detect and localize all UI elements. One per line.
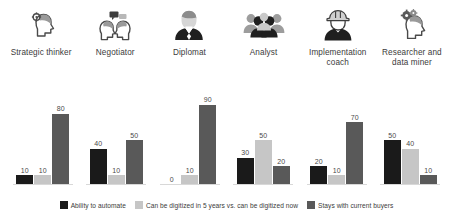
bar-value-label: 30 bbox=[241, 149, 249, 156]
bar bbox=[126, 140, 143, 184]
bar bbox=[52, 114, 69, 184]
bar-wrap: 50 bbox=[255, 78, 272, 184]
category-header-researcher-data-miner: Researcher and data miner bbox=[375, 4, 449, 78]
legend-item[interactable]: Ability to automate bbox=[60, 201, 126, 209]
bar-wrap: 50 bbox=[126, 78, 143, 184]
bar-wrap: 40 bbox=[90, 78, 107, 184]
bar-value-label: 10 bbox=[21, 167, 29, 174]
group-of-people-icon bbox=[241, 4, 287, 46]
bar-value-label: 50 bbox=[130, 132, 138, 139]
bar bbox=[384, 140, 401, 184]
category-label: Strategic thinker bbox=[11, 48, 72, 58]
bar-wrap: 90 bbox=[199, 78, 216, 184]
bar bbox=[199, 105, 216, 184]
legend-swatch bbox=[60, 201, 68, 209]
bar-group: 201070 bbox=[300, 78, 374, 193]
bar bbox=[402, 149, 419, 184]
bar-value-label: 10 bbox=[186, 167, 194, 174]
person-suit-tie-icon bbox=[172, 4, 206, 46]
category-label: Implementation coach bbox=[301, 48, 375, 68]
head-with-gear-icon bbox=[24, 4, 58, 46]
bar-wrap: 80 bbox=[52, 78, 69, 184]
bar bbox=[237, 158, 254, 184]
category-label: Researcher and data miner bbox=[375, 48, 449, 68]
bar bbox=[273, 166, 290, 184]
bar-value-label: 40 bbox=[406, 140, 414, 147]
bar-value-label: 80 bbox=[57, 105, 65, 112]
bar-value-label: 90 bbox=[204, 96, 212, 103]
bar-value-label: 70 bbox=[351, 114, 359, 121]
bar-wrap: 20 bbox=[310, 78, 327, 184]
bar-value-label: 10 bbox=[424, 167, 432, 174]
bar-value-label: 10 bbox=[39, 167, 47, 174]
bar-value-label: 20 bbox=[277, 158, 285, 165]
bar-group: 01090 bbox=[153, 78, 227, 193]
bar-value-label: 10 bbox=[112, 167, 120, 174]
bar-value-label: 20 bbox=[315, 158, 323, 165]
two-heads-speech-bubbles-icon bbox=[95, 4, 135, 46]
bar-wrap: 0 bbox=[163, 78, 180, 184]
person-hard-hat-icon bbox=[321, 4, 355, 46]
bar-value-label: 50 bbox=[388, 132, 396, 139]
category-header-row: Strategic thinker Negotiator bbox=[0, 0, 453, 78]
legend-label: Can be digitized in 5 years vs. can be d… bbox=[146, 202, 298, 209]
category-label: Analyst bbox=[250, 48, 278, 58]
bar-wrap: 10 bbox=[328, 78, 345, 184]
bar bbox=[108, 175, 125, 184]
legend-swatch bbox=[135, 201, 143, 209]
bar-value-label: 10 bbox=[333, 167, 341, 174]
legend-item[interactable]: Stays with current buyers bbox=[307, 201, 393, 209]
legend-label: Ability to automate bbox=[71, 202, 126, 209]
bar-value-label: 40 bbox=[94, 140, 102, 147]
bar-wrap: 40 bbox=[402, 78, 419, 184]
bar-wrap: 30 bbox=[237, 78, 254, 184]
bar-value-label: 50 bbox=[259, 132, 267, 139]
head-with-gears-icon bbox=[393, 4, 431, 46]
bar bbox=[181, 175, 198, 184]
bar-wrap: 10 bbox=[108, 78, 125, 184]
bar-group: 101080 bbox=[6, 78, 80, 193]
category-header-analyst: Analyst bbox=[227, 4, 301, 78]
bar bbox=[90, 149, 107, 184]
legend-label: Stays with current buyers bbox=[318, 202, 393, 209]
bar bbox=[255, 140, 272, 184]
bar-wrap: 10 bbox=[181, 78, 198, 184]
category-header-negotiator: Negotiator bbox=[78, 4, 152, 78]
bar-wrap: 10 bbox=[420, 78, 437, 184]
plot-area: 10108040105001090305020201070504010 bbox=[0, 78, 453, 193]
bar bbox=[34, 175, 51, 184]
bar-wrap: 20 bbox=[273, 78, 290, 184]
role-automation-bar-chart: Strategic thinker Negotiator bbox=[0, 0, 453, 217]
bar-group: 401050 bbox=[80, 78, 154, 193]
bar-wrap: 10 bbox=[16, 78, 33, 184]
bar bbox=[310, 166, 327, 184]
bar-wrap: 10 bbox=[34, 78, 51, 184]
category-label: Diplomat bbox=[173, 48, 206, 58]
bar bbox=[328, 175, 345, 184]
bar bbox=[346, 122, 363, 184]
legend-swatch bbox=[307, 201, 315, 209]
category-header-implementation-coach: Implementation coach bbox=[301, 4, 375, 78]
bar-wrap: 50 bbox=[384, 78, 401, 184]
category-label: Negotiator bbox=[96, 48, 135, 58]
bar-wrap: 70 bbox=[346, 78, 363, 184]
chart-legend: Ability to automateCan be digitized in 5… bbox=[0, 193, 453, 217]
bar-group: 305020 bbox=[227, 78, 301, 193]
bar bbox=[420, 175, 437, 184]
bar-group: 504010 bbox=[374, 78, 448, 193]
bar-value-label: 0 bbox=[170, 176, 174, 183]
legend-item[interactable]: Can be digitized in 5 years vs. can be d… bbox=[135, 201, 298, 209]
category-header-diplomat: Diplomat bbox=[152, 4, 226, 78]
bar bbox=[16, 175, 33, 184]
category-header-strategic-thinker: Strategic thinker bbox=[4, 4, 78, 78]
